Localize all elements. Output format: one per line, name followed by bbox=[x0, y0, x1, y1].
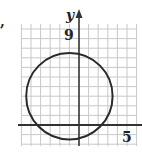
x-tick-label-5: 5 bbox=[122, 129, 132, 145]
y-axis-label: y bbox=[65, 7, 75, 23]
y-axis-arrow-icon bbox=[76, 9, 83, 18]
y-tick-label-9: 9 bbox=[64, 27, 74, 43]
circle-graph: y 9 5 bbox=[0, 0, 142, 152]
